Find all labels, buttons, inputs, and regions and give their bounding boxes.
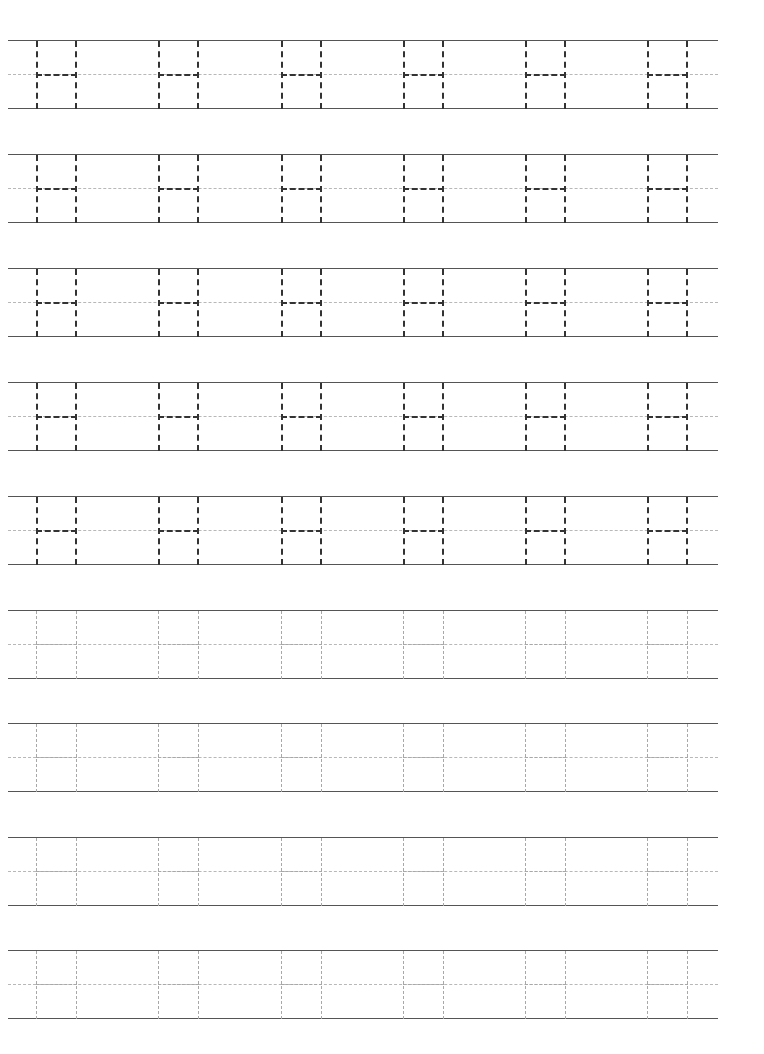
crossbar <box>403 416 444 418</box>
right-stem <box>565 611 566 679</box>
right-stem <box>320 383 322 451</box>
crossbar <box>281 757 322 758</box>
trace-letter-h <box>647 611 688 679</box>
crossbar <box>281 530 322 532</box>
trace-letter-h <box>36 724 77 792</box>
right-stem <box>198 611 199 679</box>
right-stem <box>76 724 77 792</box>
baseline <box>8 336 718 337</box>
crossbar <box>525 757 566 758</box>
tracing-row-8 <box>8 837 718 906</box>
left-stem <box>281 838 282 906</box>
crossbar <box>525 188 566 190</box>
tracing-row-7 <box>8 723 718 792</box>
left-stem <box>281 951 282 1019</box>
trace-letter-h <box>525 269 566 337</box>
trace-letter-h <box>281 269 322 337</box>
dashed-midline <box>8 871 718 872</box>
right-stem <box>442 383 444 451</box>
right-stem <box>197 269 199 337</box>
right-stem <box>75 155 77 223</box>
right-stem <box>320 497 322 565</box>
trace-letter-h <box>36 41 77 109</box>
right-stem <box>565 724 566 792</box>
right-stem <box>564 383 566 451</box>
crossbar <box>525 74 566 76</box>
tracing-row-3 <box>8 268 718 337</box>
top-guide-line <box>8 40 718 41</box>
crossbar <box>36 188 77 190</box>
trace-letter-h <box>36 951 77 1019</box>
left-stem <box>281 724 282 792</box>
right-stem <box>443 611 444 679</box>
right-stem <box>443 724 444 792</box>
baseline <box>8 108 718 109</box>
right-stem <box>76 838 77 906</box>
trace-letter-h <box>281 383 322 451</box>
tracing-row-6 <box>8 610 718 679</box>
trace-letter-h <box>158 383 199 451</box>
trace-letter-h <box>647 383 688 451</box>
trace-letter-h <box>158 611 199 679</box>
top-guide-line <box>8 837 718 838</box>
trace-letter-h <box>525 155 566 223</box>
trace-letter-h <box>403 951 444 1019</box>
trace-letter-h <box>281 41 322 109</box>
trace-letter-h <box>525 611 566 679</box>
crossbar <box>36 984 77 985</box>
left-stem <box>36 724 37 792</box>
trace-letter-h <box>281 838 322 906</box>
trace-letter-h <box>647 155 688 223</box>
crossbar <box>525 416 566 418</box>
crossbar <box>158 871 199 872</box>
baseline <box>8 222 718 223</box>
trace-letter-h <box>36 838 77 906</box>
trace-letter-h <box>403 269 444 337</box>
baseline <box>8 564 718 565</box>
right-stem <box>198 724 199 792</box>
trace-letter-h <box>281 724 322 792</box>
right-stem <box>76 611 77 679</box>
top-guide-line <box>8 154 718 155</box>
trace-letter-h <box>158 951 199 1019</box>
trace-letter-h <box>158 724 199 792</box>
left-stem <box>647 838 648 906</box>
trace-letter-h <box>158 497 199 565</box>
left-stem <box>36 611 37 679</box>
left-stem <box>158 838 159 906</box>
crossbar <box>158 74 199 76</box>
crossbar <box>158 984 199 985</box>
crossbar <box>281 302 322 304</box>
left-stem <box>158 611 159 679</box>
baseline <box>8 791 718 792</box>
right-stem <box>198 951 199 1019</box>
baseline <box>8 1018 718 1019</box>
left-stem <box>403 838 404 906</box>
right-stem <box>442 269 444 337</box>
dashed-midline <box>8 302 718 303</box>
crossbar <box>36 530 77 532</box>
crossbar <box>403 302 444 304</box>
crossbar <box>36 302 77 304</box>
trace-letter-h <box>36 155 77 223</box>
right-stem <box>320 41 322 109</box>
trace-letter-h <box>403 155 444 223</box>
trace-letter-h <box>158 155 199 223</box>
crossbar <box>525 530 566 532</box>
dashed-midline <box>8 757 718 758</box>
tracing-row-1 <box>8 40 718 109</box>
baseline <box>8 450 718 451</box>
left-stem <box>525 724 526 792</box>
top-guide-line <box>8 382 718 383</box>
trace-letter-h <box>403 497 444 565</box>
left-stem <box>525 611 526 679</box>
dashed-midline <box>8 984 718 985</box>
right-stem <box>687 611 688 679</box>
dashed-midline <box>8 188 718 189</box>
right-stem <box>75 497 77 565</box>
crossbar <box>525 644 566 645</box>
trace-letter-h <box>36 497 77 565</box>
right-stem <box>442 41 444 109</box>
right-stem <box>686 383 688 451</box>
crossbar <box>647 530 688 532</box>
